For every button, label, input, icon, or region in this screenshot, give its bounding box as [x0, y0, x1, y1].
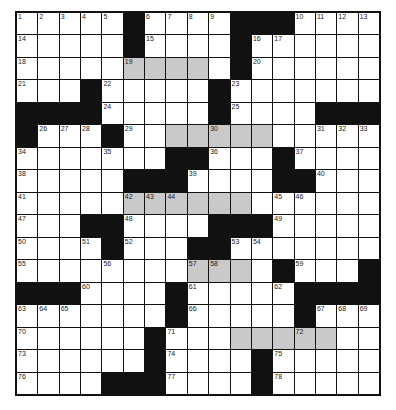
grid-cell[interactable] [166, 103, 186, 124]
grid-cell[interactable] [145, 103, 165, 124]
grid-cell[interactable] [60, 80, 80, 101]
grid-cell[interactable] [60, 215, 80, 236]
grid-cell[interactable] [38, 260, 58, 281]
grid-cell[interactable] [231, 350, 251, 371]
grid-cell[interactable] [124, 80, 144, 101]
grid-cell[interactable]: 29 [124, 125, 144, 146]
grid-cell[interactable] [145, 148, 165, 169]
grid-cell[interactable] [81, 193, 101, 214]
grid-cell[interactable] [273, 238, 293, 259]
grid-cell[interactable] [124, 328, 144, 349]
grid-cell[interactable]: 15 [145, 35, 165, 56]
grid-cell[interactable] [145, 283, 165, 304]
grid-cell[interactable] [252, 260, 272, 281]
grid-cell[interactable]: 67 [316, 305, 336, 326]
grid-cell[interactable]: 47 [17, 215, 37, 236]
grid-cell[interactable] [166, 215, 186, 236]
grid-cell[interactable] [188, 35, 208, 56]
grid-cell[interactable] [337, 373, 357, 394]
grid-cell[interactable] [273, 80, 293, 101]
grid-cell[interactable] [102, 193, 122, 214]
grid-cell[interactable] [252, 170, 272, 191]
grid-cell[interactable] [359, 238, 379, 259]
shaded-cell[interactable]: 42 [124, 193, 144, 214]
grid-cell[interactable]: 21 [17, 80, 37, 101]
grid-cell[interactable] [38, 193, 58, 214]
grid-cell[interactable]: 50 [17, 238, 37, 259]
grid-cell[interactable]: 59 [295, 260, 315, 281]
grid-cell[interactable] [316, 193, 336, 214]
grid-cell[interactable] [102, 328, 122, 349]
grid-cell[interactable] [145, 260, 165, 281]
grid-cell[interactable]: 35 [102, 148, 122, 169]
grid-cell[interactable] [209, 328, 229, 349]
grid-cell[interactable]: 48 [124, 215, 144, 236]
shaded-cell[interactable] [188, 125, 208, 146]
grid-cell[interactable] [145, 238, 165, 259]
grid-cell[interactable]: 76 [17, 373, 37, 394]
shaded-cell[interactable] [209, 193, 229, 214]
grid-cell[interactable]: 68 [337, 305, 357, 326]
grid-cell[interactable] [337, 328, 357, 349]
grid-cell[interactable] [295, 238, 315, 259]
grid-cell[interactable] [81, 170, 101, 191]
grid-cell[interactable]: 13 [359, 13, 379, 34]
grid-cell[interactable] [124, 103, 144, 124]
grid-cell[interactable]: 20 [252, 58, 272, 79]
grid-cell[interactable]: 40 [316, 170, 336, 191]
grid-cell[interactable] [81, 373, 101, 394]
grid-cell[interactable] [38, 350, 58, 371]
grid-cell[interactable] [337, 35, 357, 56]
grid-cell[interactable] [316, 373, 336, 394]
grid-cell[interactable] [166, 238, 186, 259]
shaded-cell[interactable] [231, 260, 251, 281]
grid-cell[interactable] [60, 260, 80, 281]
grid-cell[interactable] [60, 148, 80, 169]
grid-cell[interactable] [102, 305, 122, 326]
grid-cell[interactable] [81, 148, 101, 169]
grid-cell[interactable] [316, 148, 336, 169]
grid-cell[interactable]: 7 [166, 13, 186, 34]
grid-cell[interactable]: 53 [231, 238, 251, 259]
grid-cell[interactable] [102, 58, 122, 79]
grid-cell[interactable]: 24 [102, 103, 122, 124]
grid-cell[interactable] [359, 80, 379, 101]
shaded-cell[interactable] [252, 125, 272, 146]
grid-cell[interactable]: 5 [102, 13, 122, 34]
grid-cell[interactable]: 8 [188, 13, 208, 34]
grid-cell[interactable] [231, 283, 251, 304]
shaded-cell[interactable] [145, 58, 165, 79]
grid-cell[interactable] [252, 148, 272, 169]
grid-cell[interactable]: 55 [17, 260, 37, 281]
grid-cell[interactable]: 65 [60, 305, 80, 326]
grid-cell[interactable]: 11 [316, 13, 336, 34]
grid-cell[interactable] [209, 58, 229, 79]
grid-cell[interactable] [359, 328, 379, 349]
grid-cell[interactable] [38, 80, 58, 101]
grid-cell[interactable] [124, 260, 144, 281]
grid-cell[interactable] [102, 350, 122, 371]
grid-cell[interactable] [295, 215, 315, 236]
grid-cell[interactable] [81, 260, 101, 281]
grid-cell[interactable]: 32 [337, 125, 357, 146]
grid-cell[interactable]: 22 [102, 80, 122, 101]
grid-cell[interactable] [295, 58, 315, 79]
grid-cell[interactable] [209, 350, 229, 371]
grid-cell[interactable]: 1 [17, 13, 37, 34]
grid-cell[interactable] [81, 328, 101, 349]
grid-cell[interactable] [38, 170, 58, 191]
grid-cell[interactable]: 52 [124, 238, 144, 259]
grid-cell[interactable] [359, 58, 379, 79]
grid-cell[interactable]: 51 [81, 238, 101, 259]
shaded-cell[interactable] [166, 58, 186, 79]
shaded-cell[interactable]: 72 [295, 328, 315, 349]
grid-cell[interactable] [60, 170, 80, 191]
grid-cell[interactable] [188, 215, 208, 236]
grid-cell[interactable]: 10 [295, 13, 315, 34]
grid-cell[interactable]: 2 [38, 13, 58, 34]
grid-cell[interactable] [337, 58, 357, 79]
grid-cell[interactable] [273, 103, 293, 124]
grid-cell[interactable] [316, 238, 336, 259]
grid-cell[interactable] [81, 305, 101, 326]
grid-cell[interactable] [81, 350, 101, 371]
